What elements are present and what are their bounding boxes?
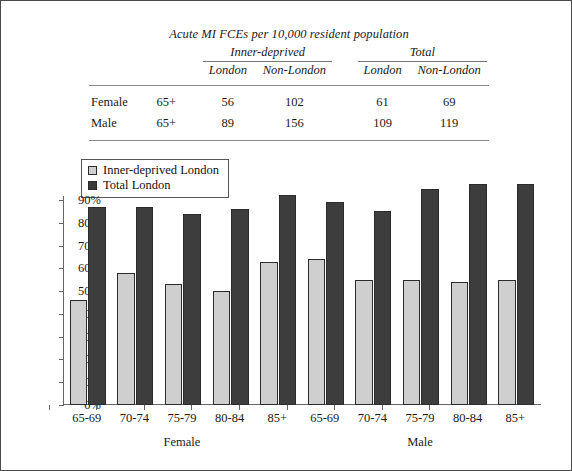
bar-inner-deprived-london xyxy=(70,300,88,405)
bar-total-london xyxy=(183,214,201,405)
cell-age-female: 65+ xyxy=(156,86,201,111)
bar-group xyxy=(445,190,493,405)
cell-female-total-non-london: 69 xyxy=(409,86,489,111)
cell-female-inner-non-london: 102 xyxy=(255,86,335,111)
table-row: Male 65+ 89 156 109 119 xyxy=(89,110,489,131)
x-axis-tick xyxy=(239,405,240,410)
x-axis-tick-label: 75-79 xyxy=(405,411,434,426)
bar-inner-deprived-london xyxy=(117,273,135,405)
bar-group xyxy=(159,190,207,405)
bar-inner-deprived-london xyxy=(308,259,326,405)
summary-table: Inner-deprived Total London Non-London L… xyxy=(89,45,489,131)
bar-total-london xyxy=(136,207,154,405)
cell-male-total-london: 109 xyxy=(356,110,409,131)
x-axis-tick-label: 85+ xyxy=(505,411,525,426)
x-axis-labels: 65-6970-7475-7980-8485+65-6970-7475-7980… xyxy=(63,411,541,429)
table-row: Female 65+ 56 102 61 69 xyxy=(89,86,489,111)
cell-male-inner-london: 89 xyxy=(201,110,254,131)
bar-inner-deprived-london xyxy=(213,291,231,405)
cell-age-male: 65+ xyxy=(156,110,201,131)
col-header-inner-london: London xyxy=(201,62,254,81)
legend-swatch-icon xyxy=(88,181,97,190)
bar-inner-deprived-london xyxy=(355,280,373,405)
cell-male-total-non-london: 119 xyxy=(409,110,489,131)
x-axis-tick-label: 85+ xyxy=(267,411,287,426)
bar-total-london xyxy=(374,211,392,405)
cell-sex-female: Female xyxy=(89,86,156,111)
table-column-header-row: London Non-London London Non-London xyxy=(89,62,489,81)
x-axis-tick-label: 80-84 xyxy=(453,411,482,426)
bar-group xyxy=(207,190,255,405)
bar-group xyxy=(112,190,160,405)
x-axis-tick xyxy=(334,405,335,410)
x-axis-group-labels: FemaleMale xyxy=(63,435,541,453)
bar-group xyxy=(302,190,350,405)
bar-inner-deprived-london xyxy=(403,280,421,405)
bar-total-london xyxy=(469,184,487,405)
x-axis-tick xyxy=(287,405,288,410)
x-axis-tick xyxy=(429,405,430,410)
bar-total-london xyxy=(279,195,297,405)
bar-inner-deprived-london xyxy=(165,284,183,405)
x-axis-tick xyxy=(144,405,145,410)
table-title: Acute MI FCEs per 10,000 resident popula… xyxy=(89,27,489,42)
group-header-total: Total xyxy=(356,45,489,61)
group-header-inner-deprived: Inner-deprived xyxy=(201,45,334,61)
table-group-header-row: Inner-deprived Total xyxy=(89,45,489,61)
x-axis-tick-label: 65-69 xyxy=(310,411,339,426)
cell-male-inner-non-london: 156 xyxy=(255,110,335,131)
summary-table-block: Acute MI FCEs per 10,000 resident popula… xyxy=(89,27,489,141)
legend-label: Inner-deprived London xyxy=(103,164,219,177)
bar-inner-deprived-london xyxy=(260,262,278,406)
x-axis-tick-label: 70-74 xyxy=(120,411,149,426)
legend-item-inner-deprived-london: Inner-deprived London xyxy=(88,163,219,178)
x-axis-tick-label: 75-79 xyxy=(167,411,196,426)
cell-female-inner-london: 56 xyxy=(201,86,254,111)
bar-series-container xyxy=(64,190,541,405)
chart-plot-area: 0%10%20%30%40%50%60%70%80%90% xyxy=(63,200,541,405)
col-header-inner-non-london: Non-London xyxy=(255,62,335,81)
x-axis-tick xyxy=(49,405,50,410)
cell-female-total-london: 61 xyxy=(356,86,409,111)
legend-swatch-icon xyxy=(88,166,97,175)
bar-group xyxy=(350,190,398,405)
bar-group xyxy=(254,190,302,405)
cell-sex-male: Male xyxy=(89,110,156,131)
x-axis-tick xyxy=(191,405,192,410)
x-axis-group-label-male: Male xyxy=(407,435,433,450)
table-bottom-rule xyxy=(89,140,489,141)
col-header-total-london: London xyxy=(356,62,409,81)
bar-total-london xyxy=(231,209,249,405)
bar-inner-deprived-london xyxy=(451,282,469,405)
x-axis-tick-label: 80-84 xyxy=(215,411,244,426)
bar-total-london xyxy=(326,202,344,405)
x-axis-tick xyxy=(382,405,383,410)
x-axis-tick-label: 70-74 xyxy=(358,411,387,426)
bar-total-london xyxy=(88,207,106,405)
bar-total-london xyxy=(421,189,439,405)
figure-panel: Acute MI FCEs per 10,000 resident popula… xyxy=(0,0,572,471)
x-axis-group-label-female: Female xyxy=(164,435,201,450)
bar-group xyxy=(64,190,112,405)
col-header-total-non-london: Non-London xyxy=(409,62,489,81)
bar-group xyxy=(492,190,540,405)
bar-total-london xyxy=(517,184,535,405)
x-axis-tick xyxy=(96,405,97,410)
bar-group xyxy=(397,190,445,405)
x-axis-tick-label: 65-69 xyxy=(72,411,101,426)
bar-inner-deprived-london xyxy=(498,280,516,405)
